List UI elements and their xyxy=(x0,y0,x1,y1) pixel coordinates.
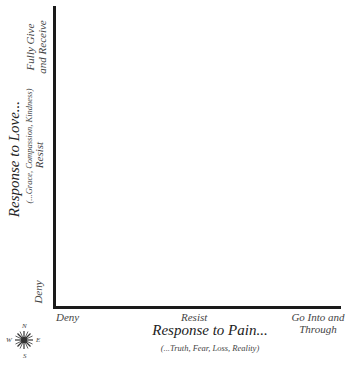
y-tick-line2: and Receive xyxy=(36,17,48,77)
x-tick-line1: Go Into and xyxy=(286,311,350,323)
y-axis-line xyxy=(53,6,56,308)
x-axis-title: Response to Pain... xyxy=(140,322,280,339)
y-axis-title: Response to Love... xyxy=(6,94,24,224)
compass-s: S xyxy=(23,352,27,360)
y-tick-fully-give: Fully Give and Receive xyxy=(24,17,50,77)
y-tick-line1: Fully Give xyxy=(24,17,36,77)
x-tick-deny: Deny xyxy=(56,311,79,323)
y-axis-subtitle: (...Grace, Compassion, Kindness) xyxy=(24,76,36,216)
compass-rose-icon: N W E S xyxy=(6,322,42,362)
compass-star-icon xyxy=(14,330,34,350)
compass-n: N xyxy=(22,322,27,330)
x-tick-go-into: Go Into and Through xyxy=(286,311,350,335)
x-axis-subtitle: (...Truth, Fear, Loss, Reality) xyxy=(140,343,280,353)
x-axis-line xyxy=(53,306,341,309)
x-tick-line2: Through xyxy=(286,323,350,335)
y-tick-deny: Deny xyxy=(32,277,46,307)
compass-e: E xyxy=(36,336,40,344)
compass-w: W xyxy=(6,336,12,344)
